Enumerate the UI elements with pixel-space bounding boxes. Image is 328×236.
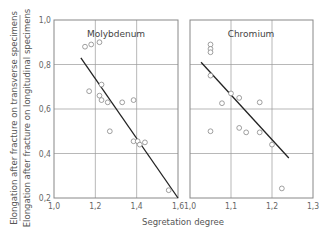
- x-tick-label: 1,3: [307, 201, 319, 211]
- data-point: [137, 142, 142, 147]
- x-tick-label: 1,6: [172, 201, 184, 211]
- y-tick-label: 0,8: [39, 60, 51, 70]
- data-point: [87, 89, 92, 94]
- data-point: [237, 95, 242, 100]
- data-point: [105, 100, 110, 105]
- x-axis-label: Segretation degree: [142, 217, 224, 227]
- y-tick-label: 0,6: [39, 104, 51, 114]
- x-tick-label: 1,0: [184, 201, 196, 211]
- x-tick-label: 1,2: [89, 201, 101, 211]
- y-axis-label-denominator: Elongation after fracture on longitudina…: [22, 8, 32, 227]
- data-point: [83, 44, 88, 49]
- y-tick-label: 0,2: [39, 193, 51, 203]
- data-point: [89, 42, 94, 47]
- data-point: [208, 50, 213, 55]
- x-tick-label: 1,1: [225, 201, 237, 211]
- data-point: [107, 129, 112, 134]
- y-tick-label: 1,0: [39, 15, 51, 25]
- x-tick-label: 1,4: [131, 201, 143, 211]
- data-point: [279, 186, 284, 191]
- data-point: [244, 130, 249, 135]
- y-axis-label: Elongation after fracture on transverse …: [9, 8, 32, 227]
- data-point: [131, 98, 136, 103]
- molybdenum-panel: 1,01,21,41,60,20,40,60,81,0Molybdenum: [39, 15, 184, 211]
- data-point: [208, 73, 213, 78]
- data-point: [166, 188, 171, 193]
- data-point: [229, 91, 234, 96]
- panel-title: Molybdenum: [87, 29, 145, 39]
- data-point: [99, 82, 104, 87]
- data-point: [237, 126, 242, 131]
- chromium-panel: 1,01,11,21,3Chromium: [184, 20, 319, 211]
- y-tick-label: 0,4: [39, 149, 51, 159]
- data-point: [270, 142, 275, 147]
- data-point: [257, 130, 262, 135]
- data-point: [257, 100, 262, 105]
- x-tick-label: 1,2: [266, 201, 278, 211]
- regression-line: [201, 62, 289, 158]
- segregation-elongation-chart: Elongation after fracture on transverse …: [0, 0, 328, 236]
- data-point: [99, 98, 104, 103]
- data-point: [220, 101, 225, 106]
- data-point: [97, 40, 102, 45]
- panel-title: Chromium: [228, 29, 275, 39]
- data-point: [208, 129, 213, 134]
- data-point: [143, 140, 148, 145]
- y-axis-label-numerator: Elongation after fracture on transverse …: [9, 11, 19, 225]
- data-point: [120, 100, 125, 105]
